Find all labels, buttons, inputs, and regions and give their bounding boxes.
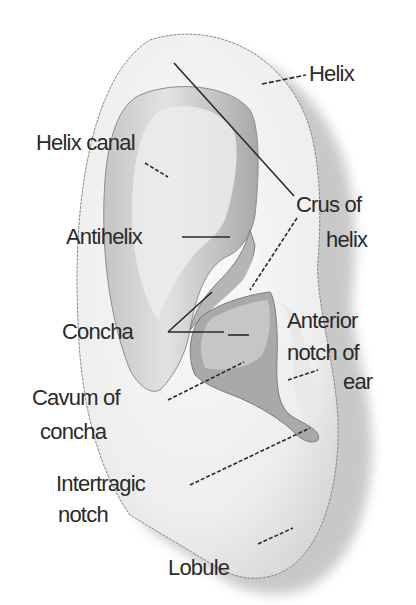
label-crus-of-helix-line2: helix xyxy=(326,228,367,252)
label-helix-canal: Helix canal xyxy=(36,131,135,155)
label-anterior-line1: Anterior xyxy=(287,309,358,333)
label-anterior-line3: ear xyxy=(343,370,372,394)
label-crus-of-helix-line1: Crus of xyxy=(296,193,361,217)
label-intertragic-line2: notch xyxy=(58,503,108,527)
label-helix: Helix xyxy=(309,62,354,86)
label-intertragic-line1: Intertragic xyxy=(56,472,145,496)
label-cavum-line1: Cavum of xyxy=(32,386,120,410)
label-lobule: Lobule xyxy=(168,556,229,580)
label-concha: Concha xyxy=(62,320,133,344)
label-anterior-line2: notch of xyxy=(287,341,359,365)
label-antihelix: Antihelix xyxy=(66,225,142,249)
label-cavum-line2: concha xyxy=(40,420,106,444)
